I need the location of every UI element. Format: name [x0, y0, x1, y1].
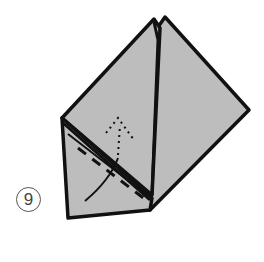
step-number-badge: 9 [16, 187, 41, 212]
back-flap [150, 17, 249, 210]
origami-diagram [0, 0, 264, 262]
